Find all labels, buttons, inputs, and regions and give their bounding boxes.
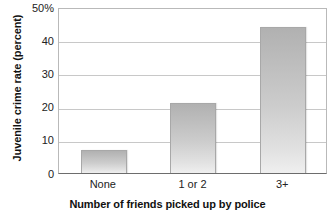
y-axis-tick-label: 40 [18, 36, 54, 47]
y-axis-tick-label: 0 [18, 169, 54, 180]
bar-3[interactable] [260, 27, 306, 173]
x-axis-tick-label: 1 or 2 [178, 178, 206, 191]
x-axis-tick-label: None [90, 178, 116, 191]
bar-slot [59, 9, 149, 173]
bar-series [59, 9, 326, 173]
bar-slot [149, 9, 239, 173]
y-axis-tick-label: 20 [18, 102, 54, 113]
bar-none[interactable] [81, 150, 127, 173]
x-axis-tick-labels: None1 or 23+ [58, 178, 327, 194]
y-axis-tick-label: 50% [18, 3, 54, 14]
plot-area [58, 8, 327, 174]
x-axis-tick-label: 3+ [276, 178, 289, 191]
bar-1-or-2[interactable] [170, 103, 216, 173]
x-axis-title: Number of friends picked up by police [0, 198, 335, 211]
bar-chart-figure: Juvenile crime rate (percent) 50%4030201… [0, 0, 335, 216]
y-axis-tick-labels: 50%403020100 [14, 0, 54, 216]
bar-slot [238, 9, 328, 173]
y-axis-tick-label: 30 [18, 69, 54, 80]
y-axis-tick-label: 10 [18, 135, 54, 146]
